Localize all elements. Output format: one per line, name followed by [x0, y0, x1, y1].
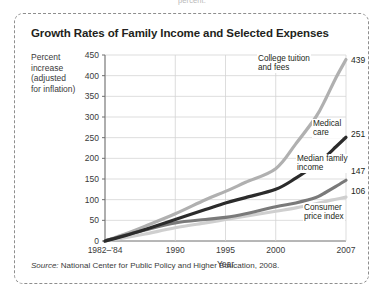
- series-label-line: income: [297, 163, 348, 172]
- y-tick-label: 50: [73, 216, 99, 225]
- series-label-consumer-price-index: Consumer price index: [303, 203, 345, 222]
- series-label-college-tuition: College tuition and fees: [257, 54, 311, 73]
- y-tick-label: 200: [73, 154, 99, 163]
- series-label-line: Consumer: [304, 203, 344, 212]
- figure-container: Growth Rates of Family Income and Select…: [14, 13, 369, 284]
- source-note-prefix: Source:: [31, 261, 59, 270]
- end-value-college-tuition: 439: [350, 55, 366, 65]
- y-tick-label: 150: [73, 175, 99, 184]
- x-tick-label: 2007: [306, 246, 384, 255]
- y-tick-label: 350: [73, 92, 99, 101]
- end-value-median-family-income: 147: [350, 166, 366, 176]
- series-label-medical-care: Medical care: [312, 119, 342, 138]
- series-label-line: and fees: [258, 63, 310, 72]
- source-note: Source: National Center for Public Polic…: [31, 261, 279, 270]
- y-tick-label: 100: [73, 196, 99, 205]
- y-tick-label: 450: [73, 51, 99, 60]
- series-label-line: price index: [304, 212, 344, 221]
- series-label-line: care: [313, 128, 341, 137]
- x-tick-label: 2000: [236, 246, 316, 255]
- y-tick-label: 400: [73, 72, 99, 81]
- source-note-text: National Center for Public Policy and Hi…: [61, 261, 279, 270]
- cut-off-caption-text: percent.: [0, 0, 384, 5]
- x-tick-label: 1982–'84: [65, 246, 145, 255]
- chart-svg: [15, 14, 370, 285]
- series-label-line: College tuition: [258, 54, 310, 63]
- series-label-median-family-income: Median family income: [296, 154, 349, 173]
- y-tick-label: 300: [73, 113, 99, 122]
- series-label-line: Median family: [297, 154, 348, 163]
- screenshot-page: percent. Growth Rates of Family Income a…: [0, 0, 384, 297]
- series-label-line: Medical: [313, 119, 341, 128]
- chart-plot-area: 450 400 350 300 250 200 150 100 50 0 198…: [15, 14, 370, 285]
- y-tick-label: 250: [73, 134, 99, 143]
- end-value-consumer-price-index: 106: [350, 186, 366, 196]
- end-value-medical-care: 251: [350, 129, 366, 139]
